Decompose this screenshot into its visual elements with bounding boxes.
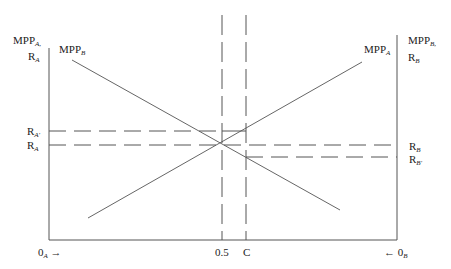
left-arrow-icon: ← [384, 246, 395, 258]
x-tick-c: C [243, 246, 250, 258]
left-axis-label-mpp: MPPA, [13, 34, 41, 50]
right-arrow-icon: → [51, 246, 62, 258]
origin-right-label: ← 0B [384, 246, 408, 262]
mpp-b-label: MPPB [59, 43, 85, 59]
left-axis-label-r: RA [28, 50, 40, 66]
x-tick-0-5: 0.5 [215, 246, 229, 258]
mpp-a-curve [88, 62, 362, 218]
mpp-b-curve [72, 60, 340, 210]
right-axis-label-r: RB [408, 51, 420, 67]
ra-label: RA [27, 139, 39, 155]
diagram-canvas [0, 0, 451, 269]
right-axis-label-mpp: MPPB, [408, 34, 436, 50]
mpp-a-label: MPPA [364, 43, 390, 59]
origin-left-label: 0A → [38, 246, 62, 262]
rb-prime-label: RB' [409, 153, 422, 169]
